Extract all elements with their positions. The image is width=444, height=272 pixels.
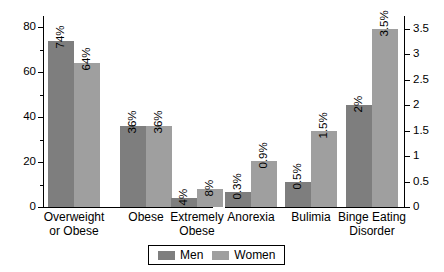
bar-label-extremely-obese-women: 8% (204, 180, 216, 197)
y-axis-right (404, 16, 405, 207)
y-tick-label-right: 1 (413, 150, 444, 162)
bar-label-extremely-obese-men: 4% (178, 189, 190, 206)
bar-overweight-or-obese-women (74, 63, 100, 207)
y-tick-label-left: 80 (6, 21, 36, 33)
y-tick-right (404, 29, 410, 30)
category-label-line: or Obese (12, 225, 136, 239)
bar-label-anorexia-men: 0.3% (232, 173, 244, 199)
bar-label-anorexia-women: 0.9% (258, 142, 270, 168)
y-tick-right (404, 156, 410, 157)
bar-label-obese-women: 36% (153, 110, 165, 133)
bar-obese-men (120, 126, 146, 207)
category-label-line: Binge Eating (310, 211, 434, 225)
y-tick-right (404, 54, 410, 55)
category-label-line: Obese (135, 225, 259, 239)
bar-label-overweight-or-obese-women: 64% (81, 47, 93, 70)
bar-binge-eating-disorder-men (346, 105, 372, 207)
bar-label-obese-men: 36% (127, 110, 139, 133)
y-tick-label-left: 20 (6, 156, 36, 168)
bar-bulimia-women (311, 131, 337, 207)
plot-area: 02040608000.511.522.533.574%64%Overweigh… (0, 0, 444, 272)
y-tick-right (404, 105, 410, 106)
legend: MenWomen (148, 245, 285, 265)
bar-label-bulimia-men: 0.5% (292, 163, 304, 189)
bar-overweight-or-obese-men (48, 41, 74, 207)
legend-item-women: Women (212, 249, 275, 261)
legend-swatch-women (212, 251, 229, 260)
y-tick-label-right: 0.5 (413, 176, 444, 188)
y-tick-minor-left (40, 50, 44, 51)
y-axis-left (43, 16, 44, 207)
y-tick-label-right: 1.5 (413, 125, 444, 137)
y-tick-left (38, 162, 44, 163)
y-tick-minor-left (40, 95, 44, 96)
bar-chart: 02040608000.511.522.533.574%64%Overweigh… (0, 0, 444, 272)
bar-obese-women (146, 126, 172, 207)
y-tick-label-left: 60 (6, 66, 36, 78)
bar-label-bulimia-women: 1.5% (318, 112, 330, 138)
y-tick-right (404, 207, 410, 208)
y-tick-left (38, 72, 44, 73)
y-tick-label-right: 3 (413, 48, 444, 60)
legend-label-women: Women (234, 249, 275, 261)
x-axis-right (225, 207, 404, 208)
bar-label-overweight-or-obese-men: 74% (55, 25, 67, 48)
bar-label-binge-eating-disorder-women: 3.5% (379, 10, 391, 36)
y-tick-label-right: 3.5 (413, 23, 444, 35)
y-tick-right (404, 131, 410, 132)
category-label-line: Disorder (310, 225, 434, 239)
category-label-binge-eating-disorder: Binge EatingDisorder (310, 211, 434, 238)
y-tick-label-left: 40 (6, 111, 36, 123)
bar-label-binge-eating-disorder-men: 2% (353, 96, 365, 113)
x-axis-left (43, 207, 213, 208)
legend-item-men: Men (158, 249, 203, 261)
y-tick-left (38, 207, 44, 208)
y-tick-minor-left (40, 185, 44, 186)
y-tick-label-right: 2 (413, 99, 444, 111)
y-tick-right (404, 80, 410, 81)
legend-swatch-men (158, 251, 175, 260)
y-tick-right (404, 182, 410, 183)
y-tick-label-right: 2.5 (413, 74, 444, 86)
legend-label-men: Men (180, 249, 203, 261)
y-tick-minor-left (40, 140, 44, 141)
bar-binge-eating-disorder-women (372, 29, 398, 207)
y-tick-left (38, 27, 44, 28)
y-tick-left (38, 117, 44, 118)
